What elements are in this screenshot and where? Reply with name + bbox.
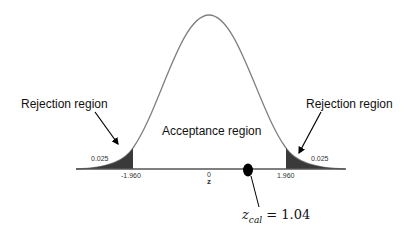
zcal-leader-line [251,176,259,207]
left-tail-prob: 0.025 [91,155,109,162]
zcal-symbol: z [242,207,249,222]
zcal-subscript: cal [249,215,262,225]
right-tail-prob: 0.025 [311,155,329,162]
z-axis-label: z [207,177,211,186]
acceptance-label: Acceptance region [162,124,261,138]
bell-curve [76,15,345,169]
normal-curve-diagram [0,0,407,230]
left-rejection-label: Rejection region [21,97,108,111]
right-critical-value: 1.960 [277,172,295,179]
right-rejection-arrow [299,112,321,153]
zcal-marker [243,164,253,177]
right-rejection-label: Rejection region [306,97,393,111]
zcal-annotation: zcal = 1.04 [242,207,310,225]
left-critical-value: -1.960 [121,172,141,179]
left-rejection-arrow [95,112,118,144]
zcal-value: = 1.04 [266,207,310,222]
